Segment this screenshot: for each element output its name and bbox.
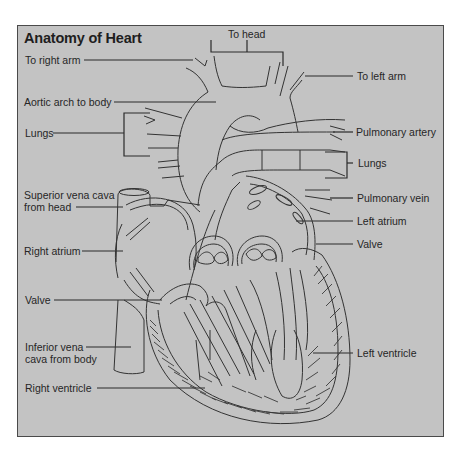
label-valve-right: Valve bbox=[357, 238, 383, 250]
inferior-vena-cava bbox=[114, 300, 144, 374]
label-pulmonary-artery: Pulmonary artery bbox=[356, 126, 436, 138]
label-right-ventricle: Right ventricle bbox=[25, 382, 92, 394]
label-lungs-left: Lungs bbox=[25, 127, 54, 139]
right-atrium bbox=[115, 189, 200, 305]
label-to-left-arm: To left arm bbox=[357, 70, 406, 82]
label-inferior-vena-cava-line1: Inferior vena bbox=[25, 341, 83, 353]
label-inferior-vena-cava-line2: cava from body bbox=[25, 353, 97, 365]
label-pulmonary-vein: Pulmonary vein bbox=[357, 192, 429, 204]
label-inferior-vena-cava: Inferior vena cava from body bbox=[25, 341, 97, 365]
pulmonary-trunk bbox=[186, 150, 345, 300]
label-valve-left: Valve bbox=[25, 294, 51, 306]
label-aortic-arch: Aortic arch to body bbox=[24, 96, 112, 108]
label-to-right-arm: To right arm bbox=[25, 54, 80, 66]
left-lung-vessels bbox=[144, 108, 184, 178]
label-left-ventricle: Left ventricle bbox=[357, 347, 417, 359]
label-right-atrium: Right atrium bbox=[24, 245, 81, 257]
ventricles bbox=[146, 248, 350, 423]
label-superior-vena-cava-line2: from head bbox=[24, 201, 71, 213]
aortic-arch bbox=[178, 92, 345, 212]
muscle-hatching bbox=[150, 266, 342, 414]
label-left-atrium: Left atrium bbox=[357, 215, 407, 227]
valves bbox=[189, 236, 282, 270]
label-to-head: To head bbox=[228, 28, 265, 40]
label-superior-vena-cava: Superior vena cava from head bbox=[24, 189, 114, 213]
left-atrium bbox=[246, 176, 332, 260]
label-superior-vena-cava-line1: Superior vena cava bbox=[24, 189, 114, 201]
label-lungs-right: Lungs bbox=[358, 157, 387, 169]
aortic-branches bbox=[186, 56, 304, 132]
